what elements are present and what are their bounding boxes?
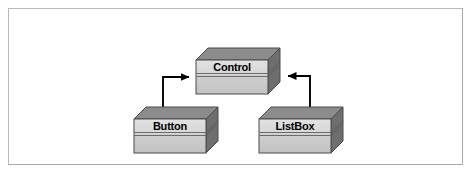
- class-name-listbox: ListBox: [259, 120, 331, 132]
- control-top-face: [196, 48, 280, 60]
- button-top-face: [134, 107, 218, 119]
- class-box-listbox[interactable]: ListBox: [253, 104, 349, 158]
- class-box-control[interactable]: Control: [190, 46, 286, 98]
- class-box-button[interactable]: Button: [128, 104, 224, 158]
- class-name-button: Button: [134, 120, 206, 132]
- class-name-control: Control: [196, 61, 268, 73]
- listbox-top-face: [259, 107, 343, 119]
- diagram-canvas: Control Button: [0, 0, 473, 175]
